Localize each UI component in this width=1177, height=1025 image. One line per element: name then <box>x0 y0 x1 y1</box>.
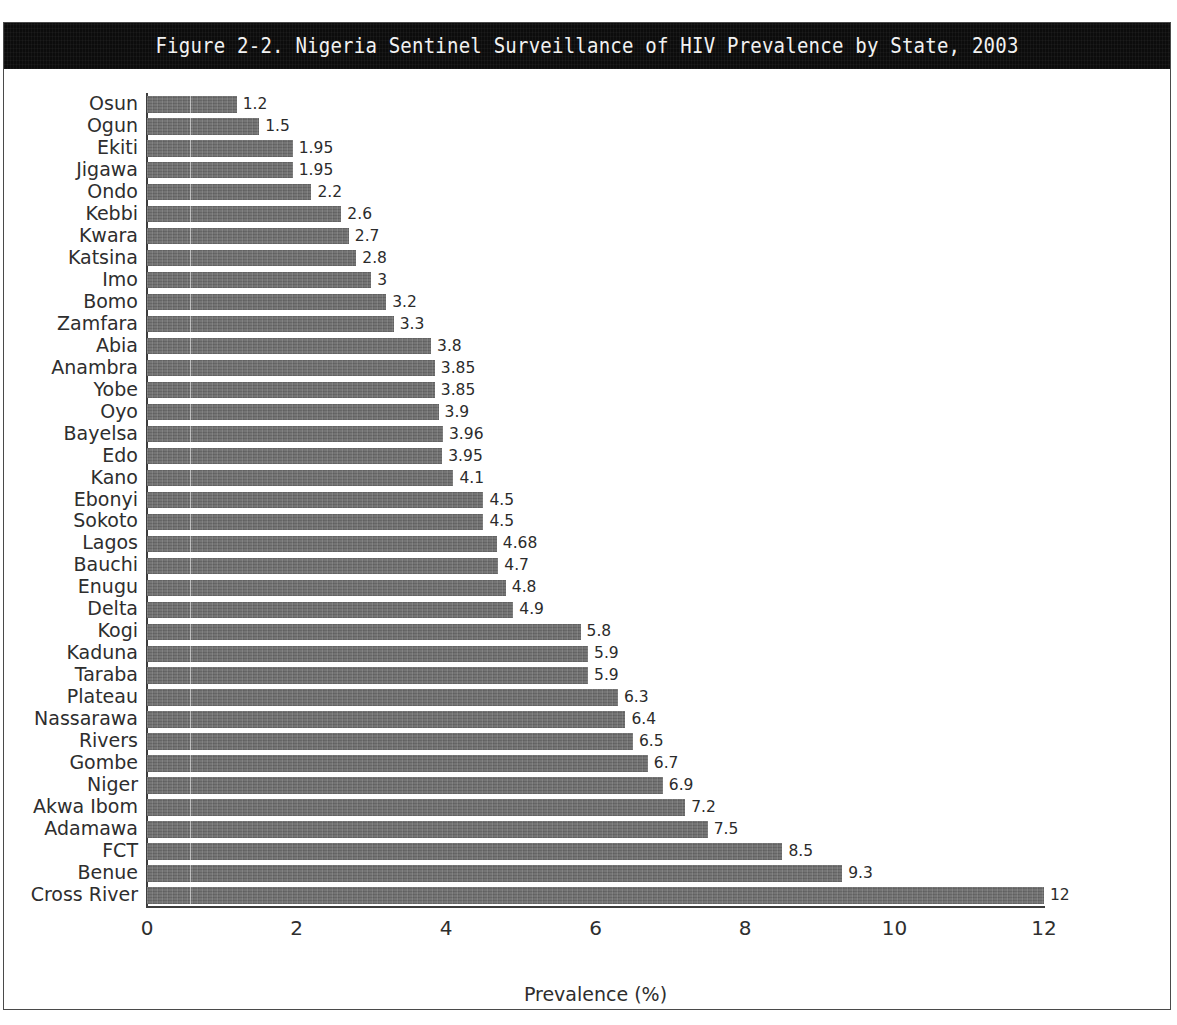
bar <box>147 316 394 332</box>
bar-value-label: 6.5 <box>633 730 664 752</box>
bar <box>147 228 349 244</box>
category-label: Niger <box>87 774 138 796</box>
category-label: Kwara <box>79 225 138 247</box>
bar <box>147 426 443 442</box>
bar-row: FCT8.5 <box>147 840 1044 862</box>
bar-value-label: 3.9 <box>439 401 470 423</box>
bar-row: Rivers6.5 <box>147 730 1044 752</box>
bar-value-label: 6.3 <box>618 686 649 708</box>
category-label: Kano <box>91 467 138 489</box>
category-label: Ogun <box>87 115 138 137</box>
bar <box>147 470 453 486</box>
bar <box>147 667 588 683</box>
bar <box>147 272 371 288</box>
bar-value-label: 4.5 <box>483 510 514 532</box>
bar-value-label: 3.2 <box>386 291 417 313</box>
bar <box>147 711 625 727</box>
x-tick-label: 4 <box>440 916 453 940</box>
bar-row: Cross River12 <box>147 884 1044 906</box>
bar-row: Gombe6.7 <box>147 752 1044 774</box>
bar-row: Ekiti1.95 <box>147 137 1044 159</box>
category-label: Ekiti <box>97 137 138 159</box>
bar-row: Enugu4.8 <box>147 576 1044 598</box>
bar-value-label: 2.7 <box>349 225 380 247</box>
bar-row: Oyo3.9 <box>147 401 1044 423</box>
bar-row: Kebbi2.6 <box>147 203 1044 225</box>
category-label: Akwa Ibom <box>33 796 138 818</box>
bar-value-label: 1.2 <box>237 93 268 115</box>
bar <box>147 777 663 793</box>
category-label: Delta <box>87 598 138 620</box>
bar-row: Bomo3.2 <box>147 291 1044 313</box>
bar-value-label: 3.3 <box>394 313 425 335</box>
bar <box>147 294 386 310</box>
bar-value-label: 4.1 <box>453 467 484 489</box>
category-label: Jigawa <box>76 159 138 181</box>
bar <box>147 404 439 420</box>
category-label: Kaduna <box>66 642 138 664</box>
bar-row: Taraba5.9 <box>147 664 1044 686</box>
category-label: Cross River <box>31 884 138 906</box>
x-tick-label: 12 <box>1031 916 1056 940</box>
category-label: Benue <box>78 862 139 884</box>
bar <box>147 162 293 178</box>
bar-value-label: 4.9 <box>513 598 544 620</box>
category-label: Ebonyi <box>74 489 138 511</box>
bar-row: Delta4.9 <box>147 598 1044 620</box>
x-axis-title: Prevalence (%) <box>147 983 1044 1005</box>
category-label: Bauchi <box>74 554 139 576</box>
category-label: Taraba <box>75 664 138 686</box>
bar <box>147 865 842 881</box>
bar-value-label: 2.8 <box>356 247 387 269</box>
bar <box>147 624 581 640</box>
bar-value-label: 12 <box>1044 884 1070 906</box>
category-label: Anambra <box>51 357 138 379</box>
bar-value-label: 1.95 <box>293 137 334 159</box>
bar-value-label: 5.9 <box>588 664 619 686</box>
bar-value-label: 3.85 <box>435 379 476 401</box>
bar <box>147 558 498 574</box>
bar <box>147 733 633 749</box>
bar-value-label: 4.8 <box>506 576 537 598</box>
bar-row: Jigawa1.95 <box>147 159 1044 181</box>
category-label: Rivers <box>79 730 138 752</box>
category-label: Imo <box>102 269 138 291</box>
bar <box>147 646 588 662</box>
bar <box>147 140 293 156</box>
category-label: Kebbi <box>85 203 138 225</box>
bar-row: Ondo2.2 <box>147 181 1044 203</box>
bar-value-label: 3 <box>371 269 387 291</box>
bar-row: Osun1.2 <box>147 93 1044 115</box>
chart-plot-area: Osun1.2Ogun1.5Ekiti1.95Jigawa1.95Ondo2.2… <box>147 93 1044 906</box>
bar-value-label: 5.9 <box>588 642 619 664</box>
bar-value-label: 3.96 <box>443 423 484 445</box>
x-tick-label: 10 <box>882 916 907 940</box>
bar-row: Kano4.1 <box>147 467 1044 489</box>
bar-value-label: 1.5 <box>259 115 290 137</box>
bar-row: Akwa Ibom7.2 <box>147 796 1044 818</box>
bar-row: Zamfara3.3 <box>147 313 1044 335</box>
bar <box>147 602 513 618</box>
category-label: Abia <box>96 335 138 357</box>
category-label: Bayelsa <box>64 423 138 445</box>
bar-value-label: 4.68 <box>497 532 538 554</box>
category-label: Katsina <box>68 247 138 269</box>
bar <box>147 580 506 596</box>
bar <box>147 96 237 112</box>
bar <box>147 250 356 266</box>
category-label: Gombe <box>69 752 138 774</box>
bar <box>147 821 708 837</box>
bar <box>147 338 431 354</box>
bar-row: Katsina2.8 <box>147 247 1044 269</box>
bar-row: Adamawa7.5 <box>147 818 1044 840</box>
bar-value-label: 3.85 <box>435 357 476 379</box>
category-label: Sokoto <box>73 510 138 532</box>
bar <box>147 689 618 705</box>
bar <box>147 360 435 376</box>
figure-title-bar: Figure 2-2. Nigeria Sentinel Surveillanc… <box>4 23 1170 69</box>
bar-row: Benue9.3 <box>147 862 1044 884</box>
category-label: Zamfara <box>57 313 138 335</box>
bar-value-label: 2.2 <box>311 181 342 203</box>
bar-row: Ebonyi4.5 <box>147 489 1044 511</box>
bar <box>147 514 483 530</box>
